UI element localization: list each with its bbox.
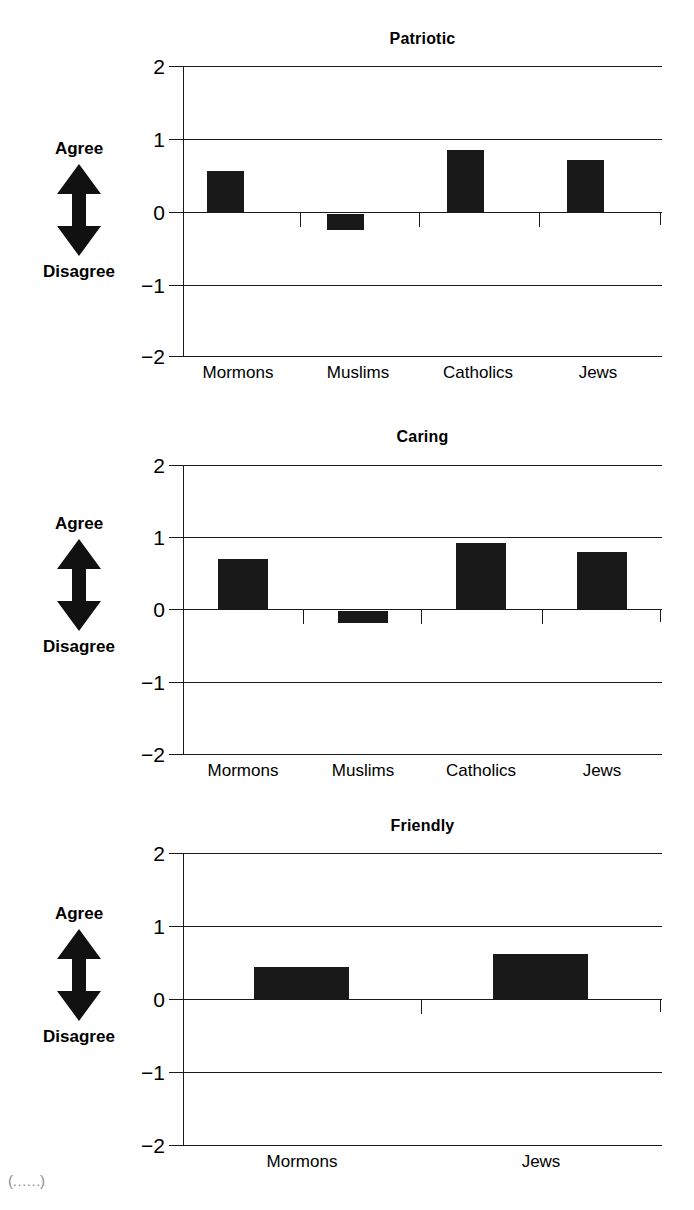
y-tick-label-1: 1 bbox=[125, 916, 165, 937]
y-tick-2 bbox=[169, 853, 183, 854]
gridline-m2 bbox=[183, 1145, 662, 1146]
disagree-label: Disagree bbox=[4, 1028, 154, 1045]
gridline-2 bbox=[183, 853, 662, 854]
y-tick-m2 bbox=[169, 1145, 183, 1146]
y-tick-label-m1: −1 bbox=[125, 1062, 165, 1083]
chart-panel-friendly: Friendly Agree Disagree 2 1 0 −1 −2 Mo bbox=[0, 0, 694, 1210]
y-tick-1 bbox=[169, 926, 183, 927]
zero-line bbox=[183, 999, 662, 1000]
y-tick-label-m2: −2 bbox=[125, 1135, 165, 1156]
bar-mormons bbox=[254, 967, 349, 999]
x-axis-label-mormons: Mormons bbox=[267, 1153, 338, 1170]
bar-jews bbox=[493, 954, 588, 999]
y-tick-label-2: 2 bbox=[125, 843, 165, 864]
gridline-1 bbox=[183, 926, 662, 927]
x-tick-end bbox=[660, 999, 661, 1012]
scan-artifact: (……) bbox=[8, 1172, 44, 1189]
plot-area-friendly: 2 1 0 −1 −2 Mormons Jews bbox=[183, 0, 662, 1210]
x-axis-label-jews: Jews bbox=[522, 1153, 561, 1170]
x-tick-sep-1 bbox=[421, 999, 422, 1014]
gridline-m1 bbox=[183, 1072, 662, 1073]
y-tick-0 bbox=[169, 999, 183, 1000]
y-tick-m1 bbox=[169, 1072, 183, 1073]
y-tick-label-0: 0 bbox=[125, 989, 165, 1010]
